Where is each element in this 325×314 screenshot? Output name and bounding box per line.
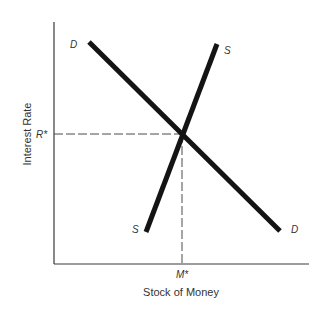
x-axis-title: Stock of Money: [143, 286, 219, 298]
supply-curve: [146, 44, 217, 232]
y-axis-title: Interest Rate: [21, 103, 33, 166]
m-star-label: M*: [176, 269, 189, 280]
supply-label-top: S: [224, 45, 231, 56]
demand-label-top: D: [70, 39, 77, 50]
r-star-label: R*: [36, 129, 48, 140]
money-market-chart: D D S S R* M* Stock of Money Interest Ra…: [0, 0, 325, 314]
demand-label-bottom: D: [291, 224, 298, 235]
supply-label-bottom: S: [132, 224, 139, 235]
